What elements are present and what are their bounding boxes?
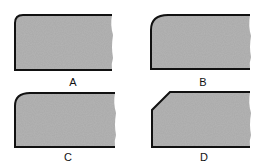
panel-d: D <box>152 92 251 163</box>
panel-a: A <box>15 15 113 88</box>
panel-b: B <box>151 15 251 88</box>
label-a: A <box>69 76 77 88</box>
profile-d-fill <box>152 92 251 147</box>
profile-a-fill <box>15 15 113 70</box>
profile-c-fill <box>15 93 116 147</box>
label-b: B <box>199 76 206 88</box>
label-c: C <box>64 151 72 163</box>
edge-profiles-diagram: A B C D <box>0 0 262 167</box>
panel-c: C <box>15 93 116 163</box>
profile-b-fill <box>151 15 251 69</box>
label-d: D <box>200 151 208 163</box>
